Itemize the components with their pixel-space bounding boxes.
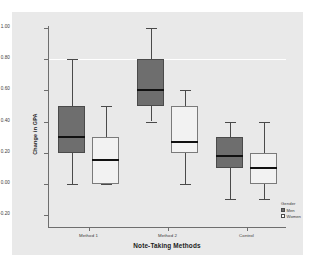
y-tick-mark: [44, 59, 48, 60]
whisker-cap-upper: [225, 122, 236, 123]
whisker-upper: [264, 122, 265, 153]
whisker-cap-lower: [146, 122, 157, 123]
box-iqr: [58, 106, 85, 153]
y-tick-label: 0.20: [1, 149, 10, 154]
whisker-cap-lower: [259, 199, 270, 200]
box-iqr: [137, 59, 164, 106]
whisker-upper: [106, 106, 107, 137]
whisker-upper: [151, 28, 152, 59]
y-tick: 0.80: [12, 59, 48, 60]
whisker-cap-lower: [180, 184, 191, 185]
legend-label-men: Men: [287, 208, 295, 213]
whisker-cap-lower: [101, 184, 112, 185]
y-tick: 0.60: [12, 90, 48, 91]
y-tick-mark: [44, 215, 48, 216]
legend-item-women: Women: [281, 214, 301, 219]
legend-swatch-men-icon: [281, 208, 285, 212]
whisker-cap-lower: [225, 199, 236, 200]
median-line: [171, 141, 198, 143]
y-tick-mark: [44, 28, 48, 29]
x-tick-label: Method 1: [79, 233, 98, 238]
whisker-cap-upper: [259, 122, 270, 123]
whisker-lower: [185, 153, 186, 184]
whisker-lower: [264, 184, 265, 200]
whisker-cap-upper: [146, 28, 157, 29]
whisker-cap-upper: [101, 106, 112, 107]
whisker-lower: [72, 153, 73, 184]
y-tick-label: 0.60: [1, 86, 10, 91]
y-tick-label: 0.80: [1, 55, 10, 60]
legend-item-men: Men: [281, 208, 301, 213]
x-tick-label: Control: [239, 233, 254, 238]
y-tick-mark: [44, 90, 48, 91]
y-tick-mark: [44, 122, 48, 123]
y-tick-mark: [44, 153, 48, 154]
whisker-upper: [185, 90, 186, 106]
y-tick: 0.20: [12, 153, 48, 154]
y-tick: 0.40: [12, 122, 48, 123]
median-line: [92, 159, 119, 161]
x-tick-mark: [247, 227, 248, 231]
x-tick-mark: [89, 227, 90, 231]
box-iqr: [216, 137, 243, 168]
y-tick-label: 0.40: [1, 118, 10, 123]
whisker-cap-upper: [67, 59, 78, 60]
x-tick-mark: [168, 227, 169, 231]
whisker-cap-lower: [67, 184, 78, 185]
median-line: [58, 136, 85, 138]
whisker-cap-upper: [180, 90, 191, 91]
y-tick-label: -0.20: [0, 211, 10, 216]
legend-swatch-women-icon: [281, 214, 285, 218]
y-tick-mark: [44, 184, 48, 185]
whisker-upper: [230, 122, 231, 138]
x-axis-title: Note-Taking Methods: [48, 242, 286, 249]
legend: Gender Men Women: [281, 201, 301, 219]
reference-gridline: [49, 59, 286, 60]
y-tick-label: 1.00: [1, 24, 10, 29]
legend-title: Gender: [281, 201, 301, 206]
legend-label-women: Women: [287, 214, 301, 219]
y-tick: -0.20: [12, 215, 48, 216]
chart-canvas: Change in GPA 1.000.800.600.400.200.00-0…: [12, 12, 303, 255]
y-axis-title: Change in GPA: [32, 113, 38, 154]
whisker-lower: [230, 168, 231, 199]
y-tick-label: 0.00: [1, 180, 10, 185]
whisker-lower: [151, 106, 152, 122]
boxplot-chart: Change in GPA 1.000.800.600.400.200.00-0…: [0, 0, 315, 267]
y-tick: 1.00: [12, 28, 48, 29]
y-tick: 0.00: [12, 184, 48, 185]
median-line: [216, 155, 243, 157]
whisker-upper: [72, 59, 73, 106]
median-line: [250, 167, 277, 169]
x-tick-label: Method 2: [158, 233, 177, 238]
y-axis-line: [48, 26, 49, 228]
box-iqr: [171, 106, 198, 153]
median-line: [137, 89, 164, 91]
